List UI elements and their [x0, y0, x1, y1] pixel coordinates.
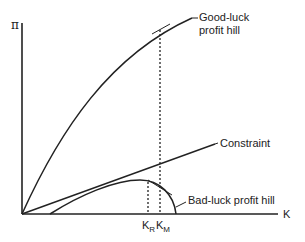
- good-luck-tangent: [152, 24, 170, 34]
- x-axis-label: K: [283, 208, 291, 220]
- good-luck-curve: [22, 18, 192, 214]
- k-r-label: KR: [142, 219, 155, 234]
- profit-hill-diagram: π K Good-luck profit hill Constraint Bad…: [0, 0, 305, 242]
- constraint-label: Constraint: [220, 137, 270, 149]
- bad-luck-label: Bad-luck profit hill: [188, 194, 275, 206]
- constraint-line: [22, 144, 215, 214]
- y-axis-label: π: [11, 18, 19, 32]
- good-luck-label-line1: Good-luck: [199, 11, 250, 23]
- good-luck-label-line2: profit hill: [199, 24, 240, 36]
- k-m-label: KM: [156, 219, 170, 234]
- constraint-leader: [215, 143, 218, 144]
- bad-luck-leader: [176, 202, 186, 207]
